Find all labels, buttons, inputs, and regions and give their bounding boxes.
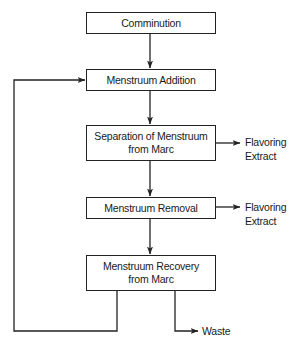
menstruum-recovery-label-line1: Menstruum Recovery	[103, 260, 199, 273]
connector-lines	[0, 0, 298, 348]
flavoring-extract-2-line2: Extract	[245, 214, 286, 228]
menstruum-recovery-box: Menstruum Recovery from Marc	[86, 255, 216, 291]
comminution-label: Comminution	[121, 17, 181, 30]
flavoring-extract-output-1: Flavoring Extract	[245, 135, 286, 163]
menstruum-removal-box: Menstruum Removal	[86, 197, 216, 219]
flavoring-extract-output-2: Flavoring Extract	[245, 200, 286, 228]
flavoring-extract-1-line1: Flavoring	[245, 135, 286, 149]
waste-output: Waste	[202, 324, 230, 338]
flavoring-extract-1-line2: Extract	[245, 149, 286, 163]
menstruum-addition-label: Menstruum Addition	[106, 74, 195, 87]
separation-label-line2: from Marc	[128, 143, 173, 156]
menstruum-addition-box: Menstruum Addition	[86, 69, 216, 91]
flavoring-extract-2-line1: Flavoring	[245, 200, 286, 214]
menstruum-recovery-label-line2: from Marc	[128, 273, 173, 286]
comminution-box: Comminution	[86, 12, 216, 34]
separation-box: Separation of Menstruum from Marc	[86, 125, 216, 161]
separation-label-line1: Separation of Menstruum	[94, 130, 207, 143]
menstruum-removal-label: Menstruum Removal	[104, 202, 197, 215]
waste-label: Waste	[202, 325, 230, 337]
